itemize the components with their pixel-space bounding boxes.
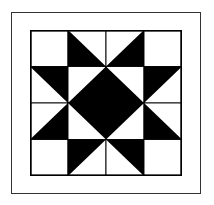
quilt-cell <box>144 30 182 67</box>
quilt-cell <box>68 140 106 177</box>
quilt-cell <box>106 103 144 140</box>
quilt-cell <box>106 67 144 104</box>
quilt-cell <box>144 140 182 177</box>
quilt-cell <box>68 30 106 67</box>
quilt-cell <box>144 67 182 104</box>
quilt-cell <box>68 67 106 104</box>
quilt-grid <box>30 30 182 176</box>
quilt-cell <box>144 103 182 140</box>
quilt-cell <box>30 67 68 104</box>
quilt-cell <box>30 140 68 177</box>
quilt-cell <box>106 30 144 67</box>
quilt-cell <box>106 140 144 177</box>
quilt-cell <box>30 30 68 67</box>
quilt-cell <box>68 103 106 140</box>
quilt-block <box>30 30 182 176</box>
quilt-cell <box>30 103 68 140</box>
